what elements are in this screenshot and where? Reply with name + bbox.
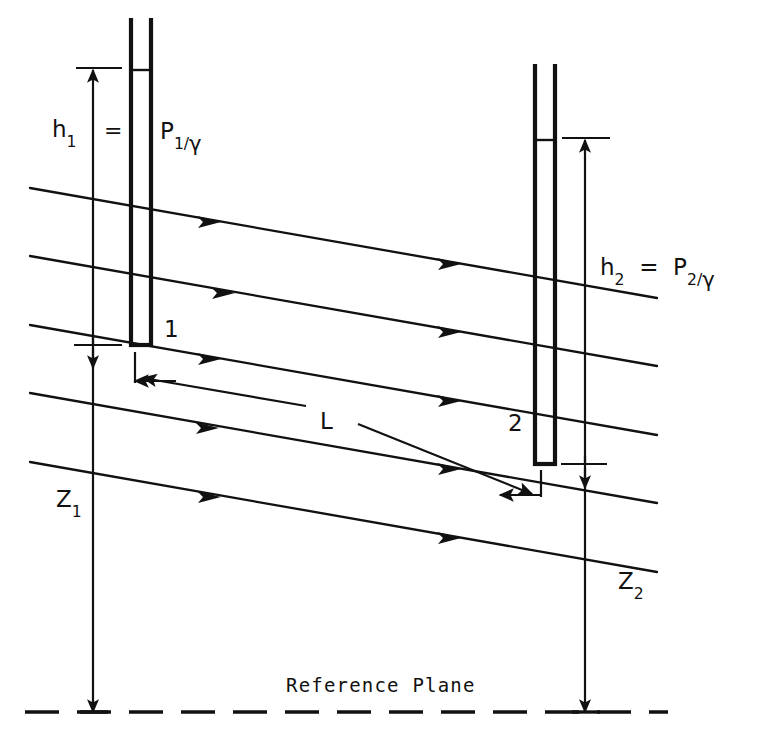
figure-root: h1 = P1/γ h2 = P2/γ 1 2 L Z1 Z2 Referenc… — [0, 0, 773, 747]
point-1-leader — [135, 352, 176, 383]
L-left-segment — [143, 378, 306, 406]
streamline-4 — [30, 393, 657, 503]
piezometer-tube-1 — [129, 18, 153, 347]
length-L-dimension — [143, 378, 532, 494]
streamline-group — [30, 188, 657, 572]
label-z1: Z1 — [56, 488, 82, 515]
flow-arrow-icon — [197, 353, 221, 365]
h2-symbol: h — [600, 254, 615, 280]
label-h2: h2 = P2/γ — [600, 256, 715, 284]
gamma-icon: γ — [189, 131, 202, 156]
z1-symbol: Z — [56, 486, 72, 512]
label-equals-1: = — [104, 120, 122, 142]
h2-subscript: 2 — [615, 270, 625, 289]
label-h1: h1 — [52, 118, 77, 145]
label-reference-plane: Reference Plane — [286, 676, 476, 695]
label-p1-over-gamma: P1/γ — [160, 120, 202, 148]
p2-subscript: 2/ — [687, 270, 702, 289]
flow-arrow-icon — [197, 216, 221, 228]
streamline-3 — [30, 325, 657, 435]
label-point-1: 1 — [164, 318, 179, 341]
h1-subscript: 1 — [67, 132, 77, 151]
flow-arrow-icon — [437, 258, 461, 270]
p1-subscript: 1/ — [174, 134, 189, 153]
z1-subscript: 1 — [72, 502, 82, 521]
equals-2: = — [639, 254, 658, 280]
flow-arrowhead-group — [195, 216, 461, 544]
streamline-2 — [30, 256, 657, 366]
h1-symbol: h — [52, 116, 67, 142]
p1-symbol: P — [160, 118, 174, 144]
flow-arrow-icon — [437, 326, 461, 338]
streamline-1 — [30, 188, 657, 298]
label-point-2: 2 — [508, 412, 523, 435]
label-length-L: L — [320, 410, 333, 433]
diagram-canvas — [0, 0, 773, 747]
piezometer-tube-2 — [533, 64, 557, 466]
z2-subscript: 2 — [634, 584, 644, 603]
p2-symbol: P — [673, 254, 687, 280]
label-z2: Z2 — [618, 570, 644, 597]
flow-arrow-icon — [437, 395, 461, 407]
z2-symbol: Z — [618, 568, 634, 594]
streamline-5 — [30, 462, 657, 572]
L-right-segment — [358, 424, 532, 494]
flow-arrow-icon — [437, 532, 461, 544]
gamma-icon: γ — [702, 267, 715, 292]
